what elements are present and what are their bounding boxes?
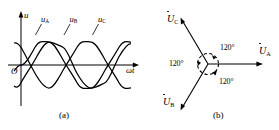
angle-label-left: 120° (169, 59, 183, 68)
y-axis (19, 11, 24, 106)
leader-line-ua (36, 24, 42, 35)
phasor-ua (208, 62, 263, 67)
origin-label: O (11, 67, 18, 76)
angle-label-top: 120° (220, 43, 234, 52)
curve-label-uc: uC (98, 15, 106, 24)
angle-label-bottom: 120° (219, 77, 233, 86)
phasor-label-ub: UB (163, 97, 174, 107)
caption-b: (b) (213, 110, 224, 120)
leader-line-uc (93, 24, 99, 35)
curve-label-ub: uB (70, 15, 78, 24)
three-phase-figure: u O ωt uA uB uC (a) (0, 0, 279, 130)
angle-arrow-bottom (212, 71, 217, 76)
angle-arrow-top (212, 55, 216, 60)
phasor-label-ua: UA (259, 46, 271, 56)
leader-line-ub (64, 24, 70, 35)
x-axis-label: ωt (126, 66, 134, 75)
phasor-ub (181, 64, 209, 111)
phasor-uc (181, 17, 209, 64)
panel-phasor: UA UC UB 120° 120° 120° (b) (150, 0, 279, 130)
panel-waveforms: u O ωt uA uB uC (a) (0, 0, 150, 130)
phasor-label-uc: UC (167, 14, 178, 24)
angle-arrow-left (198, 61, 201, 66)
y-axis-label: u (24, 11, 29, 20)
caption-a: (a) (59, 110, 69, 120)
curve-label-ua: uA (41, 15, 49, 24)
